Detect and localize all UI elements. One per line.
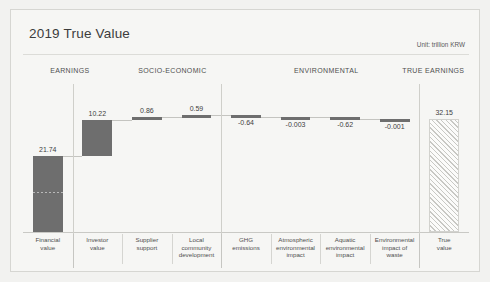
header-divider (23, 54, 469, 55)
connector-1 (112, 120, 132, 121)
group-divider (221, 84, 222, 234)
bar-8[interactable] (429, 119, 459, 232)
category-label-2: Suppliersupport (123, 236, 171, 251)
category-label-line: impact (272, 251, 320, 259)
category-label-5: Atmosphericenvironmentalimpact (272, 236, 320, 259)
axis-tick (320, 234, 321, 264)
section-label: SOCIO-ECONOMIC (138, 67, 206, 74)
connector-4 (261, 117, 281, 118)
category-label-line: Atmospheric (272, 236, 320, 244)
value-label-4: -0.64 (238, 119, 254, 126)
value-label-1: 10.22 (89, 110, 107, 117)
category-label-line: Supplier (123, 236, 171, 244)
category-label-line: development (173, 251, 221, 259)
category-label-line: value (24, 244, 72, 252)
bar-0[interactable] (33, 156, 63, 232)
category-label-0: Financialvalue (24, 236, 72, 251)
value-label-3: 0.59 (190, 105, 204, 112)
category-label-line: support (123, 244, 171, 252)
axis-group-tick (73, 234, 74, 268)
bar-4[interactable] (231, 115, 261, 118)
category-label-line: Environmental (371, 236, 419, 244)
section-label: TRUE EARNINGS (402, 67, 464, 74)
bar-5[interactable] (281, 117, 311, 120)
bar-6[interactable] (330, 117, 360, 120)
section-label: EARNINGS (50, 67, 89, 74)
category-label-8: Truevalue (420, 236, 468, 251)
category-label-line: impact (321, 251, 369, 259)
category-label-line: value (420, 244, 468, 252)
page-title: 2019 True Value (29, 26, 130, 41)
category-label-7: Environmentalimpact ofwaste (371, 236, 419, 259)
chart-card: 2019 True Value Unit: trillion KRW EARNI… (10, 9, 480, 272)
bar-1[interactable] (82, 120, 112, 156)
waterfall-plot: 21.7410.220.860.59-0.64-0.003-0.62-0.001… (23, 84, 469, 234)
connector-5 (310, 117, 330, 118)
category-label-line: environmental (272, 244, 320, 252)
category-label-line: emissions (222, 244, 270, 252)
value-label-8: 32.15 (435, 109, 453, 116)
value-label-2: 0.86 (140, 107, 154, 114)
category-label-line: GHG (222, 236, 270, 244)
unit-label: Unit: trillion KRW (417, 41, 465, 48)
category-label-line: environmental (321, 244, 369, 252)
value-label-0: 21.74 (39, 146, 57, 153)
group-divider (73, 84, 74, 234)
category-label-line: impact of (371, 244, 419, 252)
value-label-7: -0.001 (385, 123, 405, 130)
value-label-6: -0.62 (337, 121, 353, 128)
zero-baseline (23, 232, 469, 233)
category-label-line: waste (371, 251, 419, 259)
category-label-line: Aquatic (321, 236, 369, 244)
category-label-3: Localcommunitydevelopment (173, 236, 221, 259)
connector-6 (360, 119, 380, 120)
axis-group-tick (221, 234, 222, 268)
bar-2[interactable] (132, 117, 162, 120)
category-label-line: Local (173, 236, 221, 244)
value-label-5: -0.003 (286, 121, 306, 128)
axis-tick (172, 234, 173, 264)
bar-split-line (33, 192, 63, 193)
category-label-6: Aquaticenvironmentalimpact (321, 236, 369, 259)
category-label-4: GHGemissions (222, 236, 270, 251)
category-label-line: community (173, 244, 221, 252)
bar-3[interactable] (182, 115, 212, 118)
connector-2 (162, 117, 182, 118)
category-label-line: True (420, 236, 468, 244)
bar-7[interactable] (380, 119, 410, 122)
category-label-1: Investorvalue (74, 236, 122, 251)
axis-tick (370, 234, 371, 264)
axis-tick (271, 234, 272, 264)
category-label-line: value (74, 244, 122, 252)
group-divider (419, 84, 420, 234)
category-axis: FinancialvalueInvestorvalueSuppliersuppo… (23, 234, 469, 268)
screenshot-root: 2019 True Value Unit: trillion KRW EARNI… (0, 0, 490, 282)
category-label-line: Financial (24, 236, 72, 244)
axis-tick (122, 234, 123, 264)
section-label: ENVIRONMENTAL (294, 67, 358, 74)
axis-group-tick (419, 234, 420, 268)
category-label-line: Investor (74, 236, 122, 244)
